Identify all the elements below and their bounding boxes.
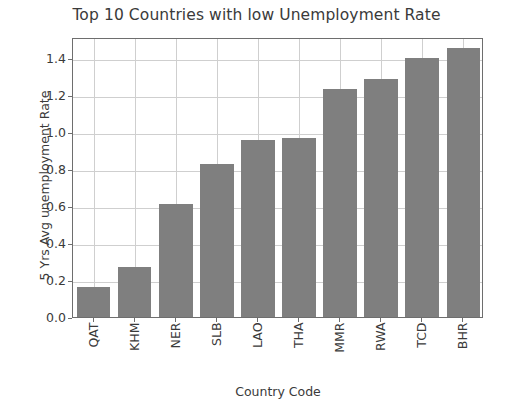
x-tick-label-tcd: TCD: [414, 323, 429, 381]
y-tick-label: 1.2: [30, 90, 66, 102]
x-tick-label-wrap: SLB: [209, 322, 223, 380]
bar-lao: [241, 140, 275, 317]
x-tick-label-qat: QAT: [85, 323, 100, 381]
bar-tha: [282, 138, 316, 317]
x-tick-label-wrap: NER: [168, 322, 182, 380]
x-tick-label-wrap: TCD: [414, 322, 428, 380]
bar-rwa: [364, 79, 398, 317]
y-tick-label: 0.0: [30, 312, 66, 324]
bar-ner: [159, 204, 193, 317]
x-tick-label-rwa: RWA: [373, 323, 388, 381]
y-tick-label: 0.6: [30, 201, 66, 213]
y-tick-label: 1.4: [30, 53, 66, 65]
bar-khm: [118, 267, 152, 317]
x-tick-label-bhr: BHR: [455, 323, 470, 381]
x-tick-label-lao: LAO: [249, 323, 264, 381]
x-tick-label-wrap: THA: [291, 322, 305, 380]
y-tick-label: 0.4: [30, 238, 66, 250]
x-tick-label-wrap: KHM: [127, 322, 141, 380]
x-tick-label-tha: THA: [291, 323, 306, 381]
gridline-vertical: [94, 39, 95, 317]
x-tick-label-slb: SLB: [208, 323, 223, 381]
x-axis-title: Country Code: [72, 384, 484, 399]
bar-mmr: [323, 89, 357, 317]
plot-area: [72, 38, 483, 318]
x-tick-label-ner: NER: [167, 323, 182, 381]
x-tick-label-wrap: RWA: [373, 322, 387, 380]
x-tick-label-wrap: LAO: [250, 322, 264, 380]
x-tick-label-mmr: MMR: [332, 323, 347, 381]
bar-qat: [77, 287, 111, 317]
chart-figure: Top 10 Countries with low Unemployment R…: [0, 0, 513, 408]
bar-tcd: [405, 58, 439, 317]
x-tick-label-wrap: BHR: [455, 322, 469, 380]
y-tick-label: 1.0: [30, 127, 66, 139]
x-tick-label-wrap: QAT: [86, 322, 100, 380]
x-tick-label-wrap: MMR: [332, 322, 346, 380]
y-tick-label: 0.8: [30, 164, 66, 176]
x-tick-label-khm: KHM: [126, 323, 141, 381]
chart-title: Top 10 Countries with low Unemployment R…: [0, 6, 513, 24]
bar-bhr: [447, 48, 481, 317]
bar-slb: [200, 164, 234, 317]
y-axis-tick-labels: 0.00.20.40.60.81.01.21.4: [26, 38, 66, 318]
y-tick-mark: [68, 318, 72, 319]
y-tick-label: 0.2: [30, 275, 66, 287]
